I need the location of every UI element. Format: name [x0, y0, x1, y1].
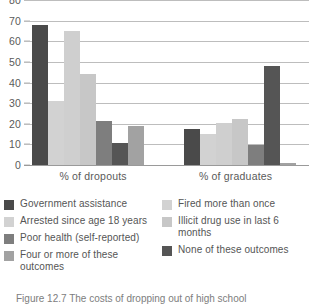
legend-swatch-icon [162, 217, 172, 227]
legend-swatch-icon [4, 217, 14, 227]
legend-item[interactable]: None of these outcomes [162, 244, 312, 256]
bar [280, 163, 296, 165]
legend-item[interactable]: Government assistance [4, 198, 162, 210]
legend-swatch-icon [4, 200, 14, 210]
legend-item-label: Government assistance [20, 198, 127, 210]
bar-group-graduates [162, 0, 309, 165]
legend-column-left: Government assistanceArrested since age … [4, 198, 162, 278]
y-tick-label-10: 10 [9, 138, 21, 150]
legend-swatch-icon [4, 251, 14, 261]
legend-item[interactable]: Arrested since age 18 years [4, 215, 162, 227]
legend-item[interactable]: Four or more of these outcomes [4, 249, 162, 273]
bar [232, 119, 248, 165]
bar [128, 126, 144, 165]
legend-item-label: Illicit drug use in last 6 months [178, 215, 312, 239]
bar [96, 121, 112, 165]
bar [80, 74, 96, 165]
legend-item-label: Fired more than once [178, 198, 275, 210]
legend-item-label: None of these outcomes [178, 244, 289, 256]
bar [216, 123, 232, 165]
legend-item-label: Poor health (self-reported) [20, 232, 139, 244]
legend-swatch-icon [4, 234, 14, 244]
y-tick-label-50: 50 [9, 56, 21, 68]
bar [32, 25, 48, 165]
axis-baseline [24, 165, 309, 166]
bar [112, 143, 128, 165]
legend-item[interactable]: Poor health (self-reported) [4, 232, 162, 244]
chart-legend: Government assistanceArrested since age … [4, 198, 312, 278]
bar [64, 31, 80, 165]
chart-figure: 80706050403020100 % of dropouts % of gra… [0, 0, 316, 304]
legend-item-label: Four or more of these outcomes [20, 249, 162, 273]
legend-item-label: Arrested since age 18 years [20, 215, 147, 227]
x-tick-label-graduates: % of graduates [162, 170, 309, 182]
bars-layer [24, 0, 309, 165]
bar [200, 134, 216, 165]
y-tick-label-60: 60 [9, 35, 21, 47]
legend-item[interactable]: Fired more than once [162, 198, 312, 210]
legend-swatch-icon [162, 200, 172, 210]
bar [184, 129, 200, 165]
bar [264, 66, 280, 165]
bar [248, 145, 264, 165]
figure-caption: Figure 12.7 The costs of dropping out of… [16, 293, 312, 304]
y-tick-label-80: 80 [9, 0, 21, 6]
x-tick-label-dropouts: % of dropouts [24, 170, 162, 182]
bar [48, 101, 64, 165]
legend-column-right: Fired more than onceIllicit drug use in … [162, 198, 312, 278]
x-axis-labels: % of dropouts % of graduates [24, 170, 309, 182]
legend-item[interactable]: Illicit drug use in last 6 months [162, 215, 312, 239]
legend-swatch-icon [162, 246, 172, 256]
plot-area: 80706050403020100 % of dropouts % of gra… [0, 0, 316, 186]
y-axis: 80706050403020100 [0, 0, 24, 186]
y-tick-label-70: 70 [9, 15, 21, 27]
y-tick-label-40: 40 [9, 77, 21, 89]
bar-group-dropouts [24, 0, 162, 165]
y-tick-label-0: 0 [15, 159, 21, 171]
y-tick-label-20: 20 [9, 118, 21, 130]
y-tick-label-30: 30 [9, 97, 21, 109]
